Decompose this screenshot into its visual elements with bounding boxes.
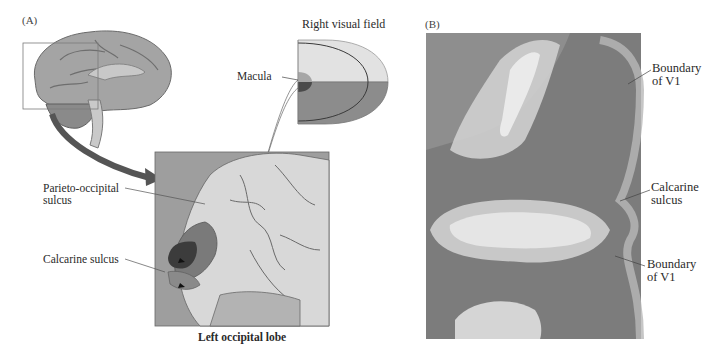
sagittal-brain-illustration <box>23 31 171 148</box>
macula-label: Macula <box>237 70 271 82</box>
boundary-v1-upper-line2: of V1 <box>652 75 681 87</box>
boundary-v1-upper-line1: Boundary <box>652 62 701 74</box>
parieto-occipital-label-line1: Parieto-occipital <box>43 182 119 194</box>
parieto-occipital-label-line2: sulcus <box>43 194 72 206</box>
inset-caption: Left occipital lobe <box>198 331 286 343</box>
calcarine-sulcus-label-a: Calcarine sulcus <box>43 253 119 265</box>
calcarine-sulcus-label-b-line2: sulcus <box>651 194 682 206</box>
panel-b-letter: (B) <box>425 18 440 30</box>
visual-field-diagram <box>298 40 388 124</box>
histology-section <box>426 33 641 339</box>
occipital-inset <box>155 152 329 326</box>
visual-field-title: Right visual field <box>302 18 385 30</box>
boundary-v1-lower-line2: of V1 <box>647 271 676 283</box>
figure-artwork <box>0 0 725 356</box>
boundary-v1-lower-line1: Boundary <box>647 258 696 270</box>
calcarine-sulcus-label-b-line1: Calcarine <box>651 181 699 193</box>
